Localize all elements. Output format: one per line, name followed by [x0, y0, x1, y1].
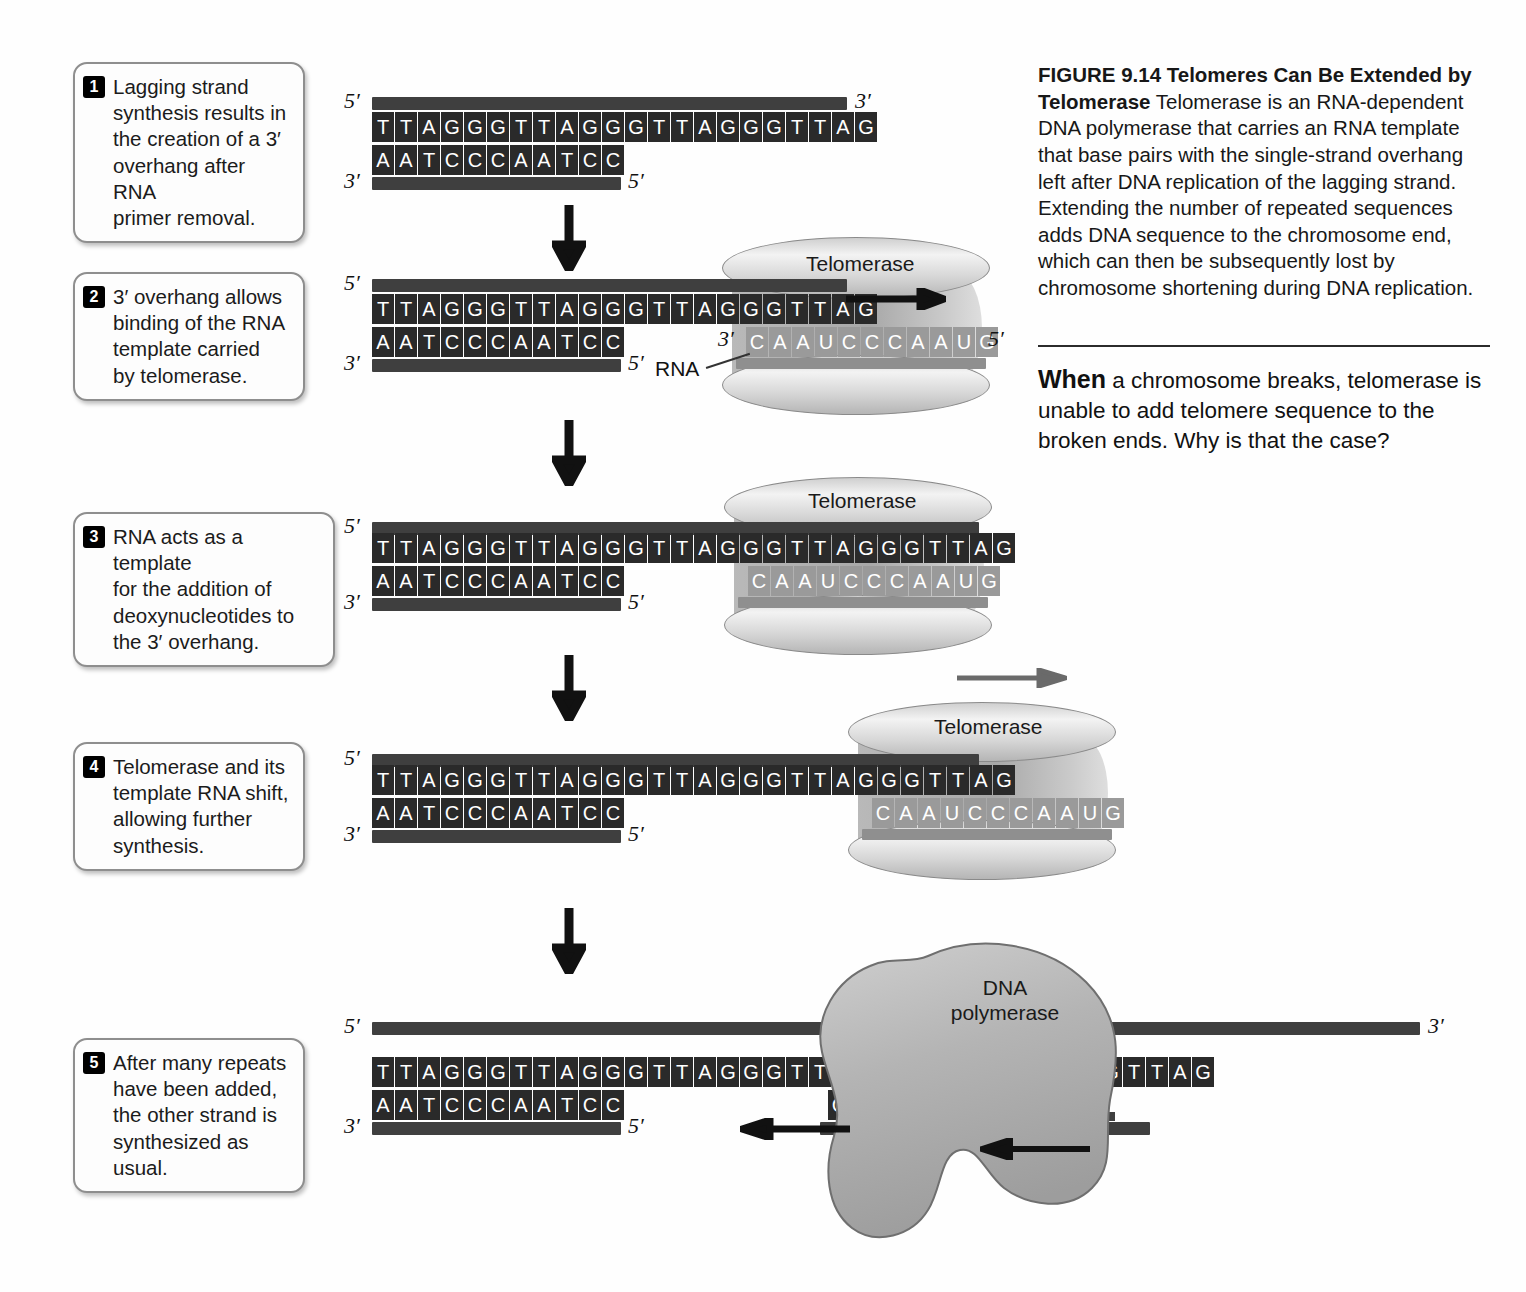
panel3-rna-backbone: [738, 597, 988, 608]
nucleotide-base: G: [763, 112, 785, 142]
nucleotide-base: A: [418, 533, 440, 563]
panel4-bottom-backbone: [372, 830, 621, 843]
nucleotide-base: G: [625, 294, 647, 324]
step-number-4: 4: [83, 756, 105, 778]
panel2-top-left-prime: 5′: [344, 270, 360, 296]
nucleotide-base: A: [1056, 798, 1078, 828]
nucleotide-base: A: [395, 327, 417, 357]
nucleotide-base: A: [418, 765, 440, 795]
panel4-top-bases: TTAGGGTTAGGGTTAGGGTTAGGGTTAG: [372, 765, 1016, 795]
think-question: When a chromosome breaks, telomerase is …: [1038, 363, 1490, 456]
panel2-rna-left-prime: 3′: [718, 326, 734, 352]
step-text-4: Telomerase and its template RNA shift, a…: [113, 754, 288, 859]
question-lead: When: [1038, 365, 1106, 393]
nucleotide-base: T: [648, 1057, 670, 1087]
nucleotide-base: A: [792, 327, 814, 357]
panel4-top-left-prime: 5′: [344, 745, 360, 771]
panel4-bottom-bases: AATCCCAATCC: [372, 798, 625, 828]
nucleotide-base: G: [602, 765, 624, 795]
nucleotide-base: A: [556, 765, 578, 795]
nucleotide-base: T: [395, 765, 417, 795]
flow-arrow-1: [552, 205, 586, 271]
nucleotide-base: A: [510, 798, 532, 828]
nucleotide-base: A: [418, 294, 440, 324]
nucleotide-base: C: [884, 327, 906, 357]
nucleotide-base: T: [947, 533, 969, 563]
nucleotide-base: U: [941, 798, 963, 828]
nucleotide-base: A: [510, 566, 532, 596]
nucleotide-base: C: [464, 798, 486, 828]
nucleotide-base: C: [487, 327, 509, 357]
panel1-bottom-right-prime: 5′: [628, 168, 644, 194]
nucleotide-base: C: [464, 566, 486, 596]
panel1-top-left-prime: 5′: [344, 88, 360, 114]
panel2-bottom-backbone: [372, 359, 621, 372]
nucleotide-base: T: [786, 765, 808, 795]
nucleotide-base: C: [840, 566, 862, 596]
telomerase-label-3: Telomerase: [808, 489, 917, 513]
panel2-bottom-right-prime: 5′: [628, 350, 644, 376]
nucleotide-base: A: [694, 294, 716, 324]
nucleotide-base: A: [832, 112, 854, 142]
panel3-rna-bases: CAAUCCCAAUG: [748, 566, 1001, 596]
nucleotide-base: T: [648, 765, 670, 795]
nucleotide-base: A: [769, 327, 791, 357]
nucleotide-base: A: [1033, 798, 1055, 828]
nucleotide-base: A: [556, 112, 578, 142]
telomerase-shift-arrow-4: [957, 668, 1067, 688]
nucleotide-base: G: [717, 1057, 739, 1087]
nucleotide-base: T: [671, 533, 693, 563]
nucleotide-base: G: [441, 533, 463, 563]
panel2-bottom-left-prime: 3′: [344, 350, 360, 376]
nucleotide-base: G: [625, 112, 647, 142]
nucleotide-base: A: [395, 1090, 417, 1120]
nucleotide-base: T: [533, 294, 555, 324]
step-callout-2: 2 3′ overhang allows binding of the RNA …: [73, 272, 305, 401]
telomerase-complex-2: Telomerase: [710, 237, 992, 415]
nucleotide-base: T: [372, 112, 394, 142]
nucleotide-base: C: [441, 327, 463, 357]
nucleotide-base: A: [533, 327, 555, 357]
nucleotide-base: A: [533, 1090, 555, 1120]
nucleotide-base: T: [648, 294, 670, 324]
figure-caption: FIGURE 9.14 Telomeres Can Be Extended by…: [1038, 62, 1490, 302]
panel2-rna-right-prime: 5′: [988, 326, 1004, 352]
nucleotide-base: T: [648, 112, 670, 142]
panel5-bottom-bases: AATCCCAATCC: [372, 1090, 625, 1120]
nucleotide-base: G: [901, 533, 923, 563]
nucleotide-base: G: [625, 533, 647, 563]
panel1-top-backbone: [372, 97, 847, 110]
nucleotide-base: G: [625, 765, 647, 795]
nucleotide-base: G: [993, 765, 1015, 795]
nucleotide-base: A: [510, 1090, 532, 1120]
panel5-bottom-backbone: [372, 1122, 621, 1135]
nucleotide-base: T: [418, 798, 440, 828]
panel1-bottom-left-prime: 3′: [344, 168, 360, 194]
panel3-top-bases: TTAGGGTTAGGGTTAGGGTTAGGGTTAG: [372, 533, 1016, 563]
nucleotide-base: T: [809, 765, 831, 795]
nucleotide-base: T: [510, 112, 532, 142]
nucleotide-base: U: [815, 327, 837, 357]
nucleotide-base: T: [648, 533, 670, 563]
nucleotide-base: C: [579, 798, 601, 828]
panel1-top-right-prime: 3′: [855, 88, 871, 114]
step-number-1: 1: [83, 76, 105, 98]
nucleotide-base: T: [418, 566, 440, 596]
nucleotide-base: A: [372, 327, 394, 357]
nucleotide-base: T: [510, 765, 532, 795]
nucleotide-base: A: [395, 798, 417, 828]
nucleotide-base: G: [441, 112, 463, 142]
step-callout-5: 5 After many repeats have been added, th…: [73, 1038, 305, 1193]
flow-arrow-3: [552, 655, 586, 721]
nucleotide-base: T: [533, 533, 555, 563]
step-number-2: 2: [83, 286, 105, 308]
nucleotide-base: T: [372, 1057, 394, 1087]
nucleotide-base: T: [671, 112, 693, 142]
panel1-bottom-backbone: [372, 177, 621, 190]
nucleotide-base: C: [748, 566, 770, 596]
nucleotide-base: G: [740, 112, 762, 142]
nucleotide-base: G: [855, 112, 877, 142]
nucleotide-base: A: [909, 566, 931, 596]
nucleotide-base: T: [510, 1057, 532, 1087]
nucleotide-base: C: [441, 1090, 463, 1120]
